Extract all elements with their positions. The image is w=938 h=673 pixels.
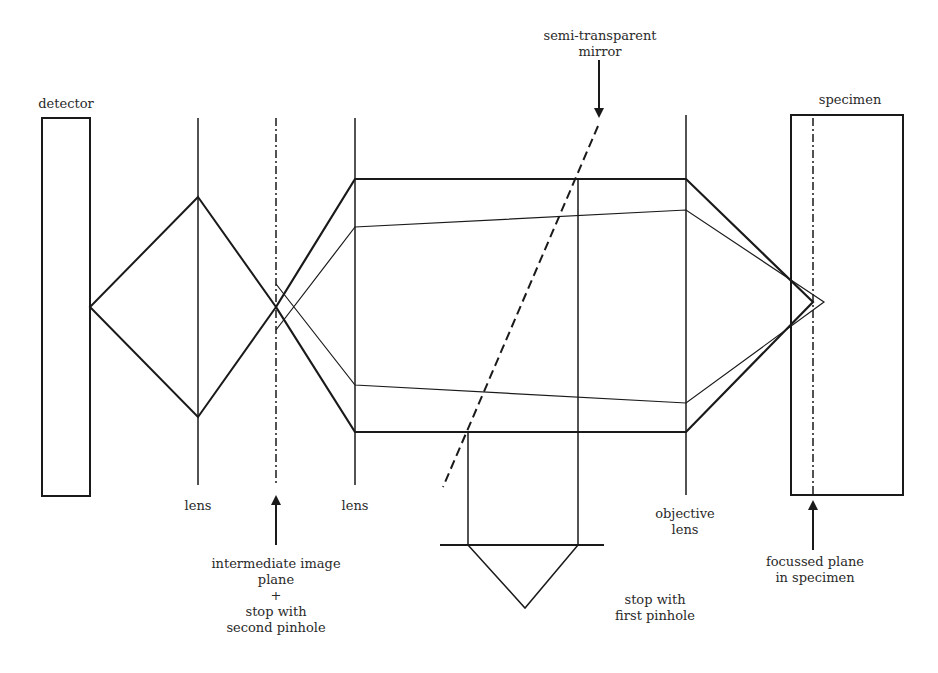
focussed-plane-label: focussed plane in specimen — [750, 554, 880, 586]
mirror-label: semi-transparent mirror — [535, 28, 665, 60]
specimen-box — [791, 115, 903, 495]
detector-box — [42, 118, 90, 496]
lens-2-label: lens — [335, 498, 375, 514]
specimen-label: specimen — [800, 92, 900, 108]
objective-lens-label: objective lens — [640, 506, 730, 538]
intermediate-plane-label: intermediate image plane + stop with sec… — [196, 556, 356, 636]
first-pinhole-label: stop with first pinhole — [600, 592, 710, 624]
lens-1-label: lens — [178, 498, 218, 514]
detector-label: detector — [30, 96, 102, 112]
detector-rays — [90, 197, 276, 417]
